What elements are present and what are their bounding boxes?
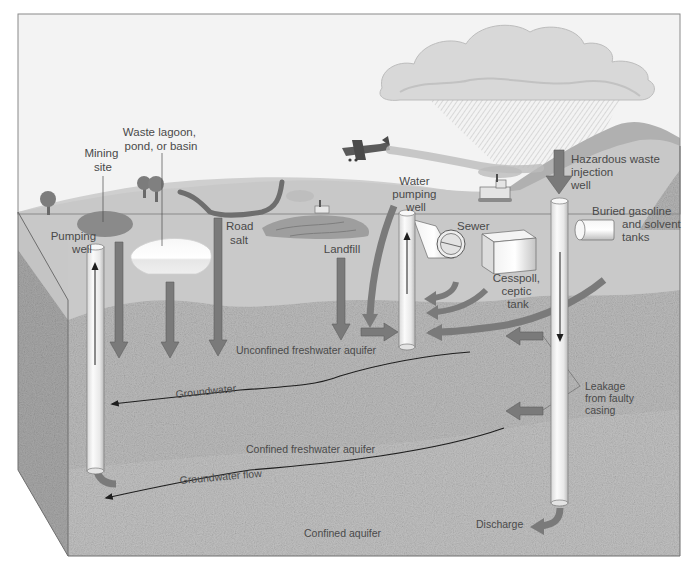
- buried-tank-icon: [575, 220, 614, 240]
- label-landfill: Landfill: [324, 243, 360, 255]
- septic-tank-icon: [482, 230, 536, 274]
- diagram-canvas: Mining site Waste lagoon, pond, or basin…: [0, 0, 694, 575]
- hazardous-waste-injection-well: [551, 198, 568, 506]
- groundwater-contamination-diagram: Mining site Waste lagoon, pond, or basin…: [0, 0, 694, 575]
- label-sewer: Sewer: [457, 220, 490, 232]
- label-unconfined-aquifer: Unconfined freshwater aquifer: [236, 344, 377, 356]
- label-confined-freshwater-aquifer: Confined freshwater aquifer: [246, 443, 375, 455]
- water-pumping-well: [399, 210, 415, 350]
- pumping-well: [87, 244, 104, 474]
- label-discharge: Discharge: [476, 518, 523, 530]
- label-confined-aquifer: Confined aquifer: [304, 527, 382, 539]
